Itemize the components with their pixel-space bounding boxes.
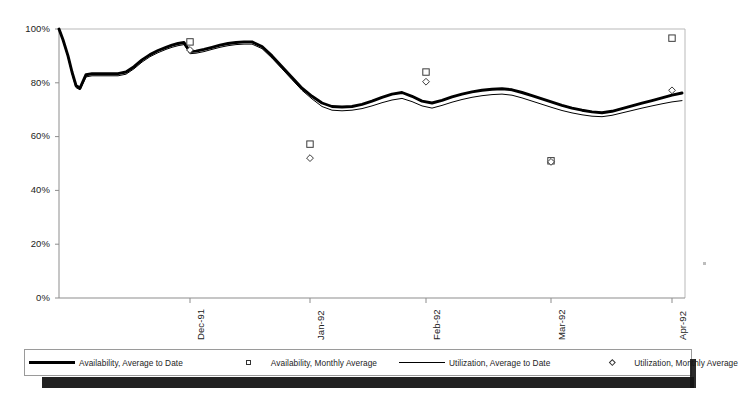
series-line-utilization-average [59, 29, 682, 117]
legend-label: Availability, Average to Date [79, 358, 185, 368]
x-axis-ticks [190, 298, 672, 303]
thin-line-icon [395, 362, 449, 363]
legend-item-utilization-monthly: Utilization, Monthly Average [590, 350, 740, 375]
chart-legend: Availability, Average to Date Availabili… [24, 349, 692, 376]
series-line-availability-average [59, 29, 682, 113]
thick-line-icon [25, 361, 79, 364]
axis-frame [59, 29, 685, 298]
y-axis-ticks [55, 29, 59, 298]
legend-label: Utilization, Average to Date [449, 358, 552, 368]
square-marker-icon [227, 360, 271, 365]
scan-shadow-edge [690, 359, 696, 388]
diamond-marker-icon [590, 360, 634, 365]
legend-item-utilization-average: Utilization, Average to Date [395, 350, 552, 375]
legend-label: Availability, Monthly Average [271, 358, 379, 368]
legend-label: Utilization, Monthly Average [634, 358, 740, 368]
series-markers-utilization-monthly [187, 47, 676, 166]
series-markers-availability-monthly [187, 35, 675, 164]
legend-item-availability-average: Availability, Average to Date [25, 350, 185, 375]
legend-item-availability-monthly: Availability, Monthly Average [227, 350, 379, 375]
scan-shadow-band [42, 377, 694, 388]
scan-speck [703, 262, 706, 265]
